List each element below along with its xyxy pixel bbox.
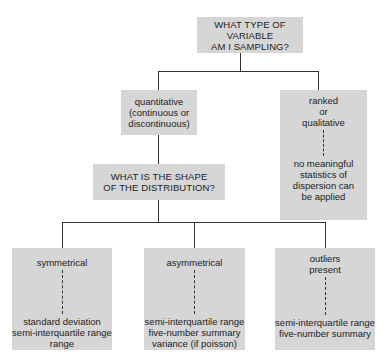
shape-question-box: WHAT IS THE SHAPE OF THE DISTRIBUTION? [93, 164, 225, 200]
symmetrical-box: symmetrical standard deviation semi-inte… [12, 248, 112, 350]
outliers-label: outliers present [309, 253, 341, 275]
dashed-connector [194, 270, 195, 314]
root-question-box: WHAT TYPE OF VARIABLE AM I SAMPLING? [197, 17, 303, 53]
quantitative-text: quantitative (continuous or discontinuou… [128, 96, 189, 129]
asymmetrical-result: semi-interquartile range five-number sum… [145, 316, 245, 349]
connector-root-down [240, 53, 241, 72]
connector-root-horizontal [158, 71, 319, 72]
connector-quantitative-to-shape [158, 135, 159, 164]
dashed-connector [323, 130, 324, 156]
dashed-connector [62, 270, 63, 314]
outliers-box: outliers present semi-interquartile rang… [275, 248, 375, 350]
quantitative-box: quantitative (continuous or discontinuou… [121, 90, 197, 135]
ranked-label: ranked or qualitative [302, 95, 345, 128]
connector-to-symmetrical [62, 222, 63, 248]
connector-to-outliers [325, 222, 326, 248]
symmetrical-label: symmetrical [37, 257, 88, 268]
shape-question-text: WHAT IS THE SHAPE OF THE DISTRIBUTION? [103, 171, 215, 193]
ranked-result: no meaningful statistics of dispersion c… [293, 158, 354, 202]
root-question-text: WHAT TYPE OF VARIABLE AM I SAMPLING? [197, 19, 303, 52]
ranked-box: ranked or qualitative no meaningful stat… [280, 90, 367, 220]
dashed-connector [325, 277, 326, 315]
asymmetrical-box: asymmetrical semi-interquartile range fi… [144, 248, 245, 350]
connector-to-asymmetrical [194, 222, 195, 248]
asymmetrical-label: asymmetrical [167, 257, 223, 268]
connector-to-quantitative [158, 71, 159, 90]
symmetrical-result: standard deviation semi-interquartile ra… [12, 316, 112, 349]
connector-to-ranked [318, 71, 319, 90]
connector-shape-down [158, 200, 159, 223]
outliers-result: semi-interquartile range five-number sum… [275, 317, 375, 339]
